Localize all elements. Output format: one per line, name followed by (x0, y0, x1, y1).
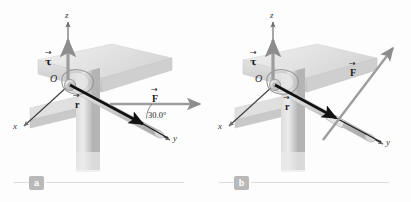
z-axis-label: z (269, 10, 274, 20)
tau-vector-label: τ (250, 56, 257, 67)
handle-axis-line (336, 118, 381, 142)
panel-a: z x y (0, 0, 206, 202)
panel-b-caption-row: b (205, 176, 411, 190)
y-axis-label: y (172, 133, 177, 143)
panel-a-caption-row: a (0, 176, 206, 190)
y-axis-label: y (385, 137, 390, 147)
panel-a-badge: a (29, 176, 44, 190)
x-axis-label: x (12, 121, 17, 131)
origin-label-a: O (50, 73, 57, 84)
r-vector-label: r (285, 101, 290, 112)
caption-rule-left (14, 182, 30, 183)
torque-wrench-figure: z x y (0, 0, 411, 202)
F-vector-label: F (152, 93, 158, 104)
x-axis-label: x (217, 121, 222, 131)
F-vector-label: F (350, 67, 356, 78)
angle-label-30deg: 30.0° (148, 110, 166, 120)
r-vector-label: r (75, 99, 80, 110)
panel-b-badge: b (234, 176, 249, 190)
caption-rule-left (219, 182, 235, 183)
tau-vector-label: τ (45, 56, 52, 67)
origin-label-b: O (255, 73, 262, 84)
caption-rule-right (251, 182, 389, 183)
panel-b: z x y O (205, 0, 411, 202)
z-axis-label: z (64, 10, 69, 20)
caption-rule-right (46, 182, 184, 183)
